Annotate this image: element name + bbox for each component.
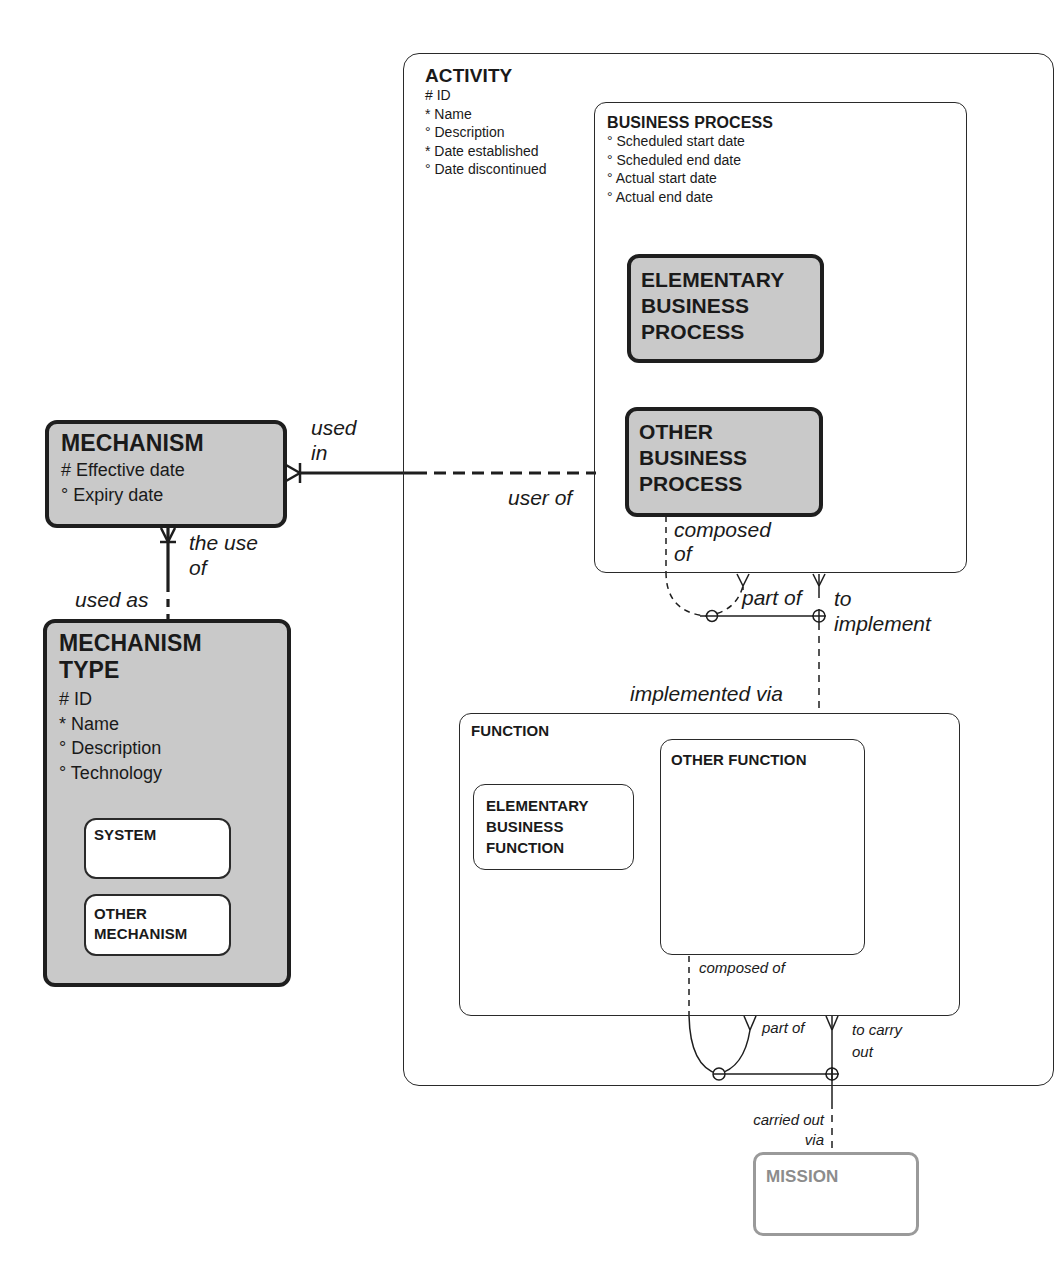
entity-other-mechanism[interactable]: OTHER MECHANISM bbox=[84, 894, 231, 956]
label-function-part-of: part of bbox=[762, 1019, 805, 1036]
attribute: ° Scheduled start date bbox=[607, 132, 745, 151]
entity-title: MECHANISM TYPE bbox=[59, 630, 202, 684]
attribute: ° Scheduled end date bbox=[607, 151, 745, 170]
entity-other-business-process[interactable]: OTHER BUSINESS PROCESS bbox=[625, 407, 823, 517]
entity-title: OTHER FUNCTION bbox=[671, 752, 807, 768]
label-process-composed-of: composed of bbox=[674, 518, 771, 566]
entity-elementary-business-process[interactable]: ELEMENTARY BUSINESS PROCESS bbox=[627, 254, 824, 363]
label-user-of: user of bbox=[508, 486, 572, 510]
attribute: ° Technology bbox=[59, 761, 162, 786]
label-to-carry-out: to carry out bbox=[852, 1019, 902, 1063]
attribute: # ID bbox=[59, 687, 162, 712]
entity-title: ELEMENTARY BUSINESS FUNCTION bbox=[486, 795, 589, 858]
attribute: ° Actual end date bbox=[607, 188, 745, 207]
attribute: * Date established bbox=[425, 142, 547, 161]
label-process-part-of: part of bbox=[742, 586, 802, 610]
entity-other-function[interactable]: OTHER FUNCTION bbox=[660, 739, 865, 955]
attribute-list: # ID * Name ° Description * Date establi… bbox=[425, 86, 547, 179]
entity-title: BUSINESS PROCESS bbox=[607, 114, 773, 131]
label-function-composed-of: composed of bbox=[699, 959, 785, 976]
label-to-implement: to implement bbox=[834, 586, 931, 636]
attribute: ° Actual start date bbox=[607, 169, 745, 188]
attribute: ° Description bbox=[59, 736, 162, 761]
entity-title: OTHER BUSINESS PROCESS bbox=[639, 419, 747, 497]
attribute: * Name bbox=[425, 105, 547, 124]
label-the-use-of: the use of bbox=[189, 530, 258, 580]
attribute: # Effective date bbox=[61, 458, 185, 483]
label-implemented-via: implemented via bbox=[630, 682, 783, 706]
attribute: ° Date discontinued bbox=[425, 160, 547, 179]
attribute: ° Description bbox=[425, 123, 547, 142]
entity-title: FUNCTION bbox=[471, 723, 549, 739]
attribute-list: ° Scheduled start date ° Scheduled end d… bbox=[607, 132, 745, 206]
mechanism-type-line bbox=[160, 528, 176, 620]
entity-title: ELEMENTARY BUSINESS PROCESS bbox=[641, 267, 784, 345]
entity-mechanism[interactable]: MECHANISM # Effective date ° Expiry date bbox=[45, 420, 287, 528]
attribute: ° Expiry date bbox=[61, 483, 185, 508]
entity-title: ACTIVITY bbox=[425, 66, 512, 87]
attribute-list: # ID * Name ° Description ° Technology bbox=[59, 687, 162, 785]
attribute-list: # Effective date ° Expiry date bbox=[61, 458, 185, 507]
label-carried-out-via: carried out via bbox=[738, 1110, 824, 1150]
entity-title: SYSTEM bbox=[94, 827, 156, 843]
entity-title: OTHER MECHANISM bbox=[94, 904, 187, 944]
entity-system[interactable]: SYSTEM bbox=[84, 818, 231, 879]
attribute: * Name bbox=[59, 712, 162, 737]
label-used-as: used as bbox=[75, 588, 149, 612]
attribute: # ID bbox=[425, 86, 547, 105]
entity-title: MECHANISM bbox=[61, 431, 204, 456]
entity-elementary-business-function[interactable]: ELEMENTARY BUSINESS FUNCTION bbox=[473, 784, 634, 870]
entity-mission[interactable]: MISSION bbox=[753, 1152, 919, 1236]
entity-title: MISSION bbox=[766, 1168, 839, 1186]
label-used-in: used in bbox=[311, 415, 357, 465]
